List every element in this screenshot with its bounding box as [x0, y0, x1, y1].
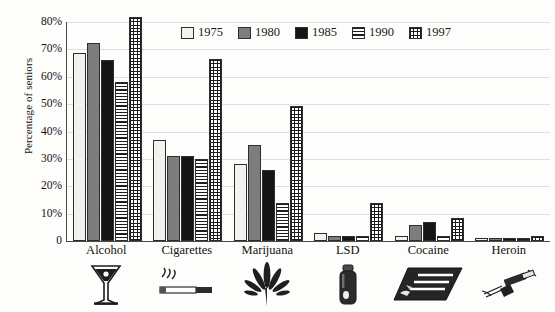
y-tick-label: 20%	[22, 180, 62, 192]
legend-label: 1975	[198, 25, 223, 40]
bar-alcohol-1975[interactable]	[73, 53, 86, 241]
bar-group-alcohol	[67, 22, 148, 241]
bar-heroin-1975[interactable]	[475, 238, 488, 241]
bar-lsd-1997[interactable]	[370, 203, 383, 241]
legend-item-1990[interactable]: 1990	[352, 25, 394, 40]
bar-group-lsd	[309, 22, 390, 241]
cannabis-leaf-icon	[227, 261, 308, 309]
legend-swatch-1990	[352, 27, 365, 39]
x-axis-labels: AlcoholCigarettesMarijuanaLSDCocaineHero…	[66, 243, 549, 258]
y-tick-label: 30%	[22, 153, 62, 165]
syringe-icon	[469, 261, 550, 309]
legend-swatch-1997	[409, 27, 422, 39]
x-label-cigarettes: Cigarettes	[147, 243, 228, 258]
bar-group-cocaine	[389, 22, 470, 241]
legend-label: 1985	[312, 25, 337, 40]
legend-label: 1990	[369, 25, 394, 40]
bar-heroin-1997[interactable]	[531, 236, 544, 241]
chart-page: Percentage of seniors 80%70%60%50%40%30%…	[0, 0, 555, 312]
y-tick-label: 80%	[22, 16, 62, 28]
bar-marijuana-1985[interactable]	[262, 170, 275, 241]
bar-alcohol-1990[interactable]	[115, 82, 128, 241]
legend-item-1975[interactable]: 1975	[181, 25, 223, 40]
bar-alcohol-1997[interactable]	[129, 17, 142, 241]
bar-cocaine-1980[interactable]	[409, 225, 422, 241]
plot-area	[66, 22, 550, 242]
bar-cigarettes-1980[interactable]	[167, 156, 180, 241]
y-tick-label: 50%	[22, 98, 62, 110]
bar-lsd-1975[interactable]	[314, 233, 327, 241]
bar-marijuana-1997[interactable]	[290, 106, 303, 242]
bar-cocaine-1975[interactable]	[395, 236, 408, 241]
bar-cigarettes-1997[interactable]	[209, 59, 222, 241]
bar-groups	[67, 22, 550, 241]
bar-marijuana-1990[interactable]	[276, 203, 289, 241]
bar-cocaine-1985[interactable]	[423, 222, 436, 241]
cigarette-icon	[147, 261, 228, 309]
y-tick-label: 60%	[22, 71, 62, 83]
bar-group-marijuana	[228, 22, 309, 241]
bar-lsd-1985[interactable]	[342, 236, 355, 241]
y-tick-label: 40%	[22, 126, 62, 138]
bar-heroin-1980[interactable]	[489, 238, 502, 241]
chart-legend: 19751980198519901997	[181, 25, 451, 40]
vial-bottle-icon	[308, 261, 389, 309]
bar-marijuana-1975[interactable]	[234, 164, 247, 241]
y-tick-label: 10%	[22, 208, 62, 220]
bar-marijuana-1980[interactable]	[248, 145, 261, 241]
legend-label: 1997	[426, 25, 451, 40]
x-label-marijuana: Marijuana	[227, 243, 308, 258]
x-label-lsd: LSD	[308, 243, 389, 258]
category-icons	[66, 261, 549, 309]
bar-alcohol-1980[interactable]	[87, 43, 100, 241]
legend-label: 1980	[255, 25, 280, 40]
legend-item-1980[interactable]: 1980	[238, 25, 280, 40]
bar-cigarettes-1985[interactable]	[181, 156, 194, 241]
y-tick-label: 0	[22, 235, 62, 247]
bar-cigarettes-1975[interactable]	[153, 140, 166, 241]
bar-cigarettes-1990[interactable]	[195, 159, 208, 241]
bar-lsd-1980[interactable]	[328, 236, 341, 241]
y-tick-label: 70%	[22, 43, 62, 55]
bar-alcohol-1985[interactable]	[101, 60, 114, 241]
bar-group-cigarettes	[148, 22, 229, 241]
bar-group-heroin	[470, 22, 551, 241]
martini-glass-icon	[66, 261, 147, 309]
bar-lsd-1990[interactable]	[356, 236, 369, 241]
x-label-cocaine: Cocaine	[388, 243, 469, 258]
x-label-heroin: Heroin	[469, 243, 550, 258]
legend-swatch-1980	[238, 27, 251, 39]
x-label-alcohol: Alcohol	[66, 243, 147, 258]
powder-lines-mirror-icon	[388, 261, 469, 309]
legend-item-1997[interactable]: 1997	[409, 25, 451, 40]
bar-cocaine-1990[interactable]	[437, 236, 450, 241]
bar-heroin-1985[interactable]	[503, 238, 516, 241]
legend-item-1985[interactable]: 1985	[295, 25, 337, 40]
legend-swatch-1985	[295, 27, 308, 39]
legend-swatch-1975	[181, 27, 194, 39]
bar-heroin-1990[interactable]	[517, 238, 530, 241]
bar-cocaine-1997[interactable]	[451, 218, 464, 241]
y-axis-tick-labels: 80%70%60%50%40%30%20%10%0	[22, 0, 62, 250]
